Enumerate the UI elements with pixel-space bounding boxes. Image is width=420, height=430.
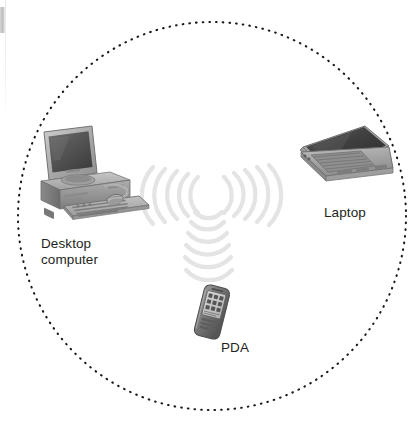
pda-icon (193, 284, 231, 341)
wireless-signal-laptop (224, 165, 281, 225)
node-label-pda: PDA (221, 340, 249, 356)
wireless-signal-desktop (142, 167, 198, 224)
desktop-computer-icon (41, 126, 149, 220)
laptop-icon (300, 126, 393, 181)
node-label-desktop: Desktop computer (41, 236, 98, 267)
diagram-canvas: Desktop computer Laptop PDA (0, 0, 420, 430)
node-label-laptop: Laptop (324, 205, 366, 221)
wireless-signal-pda (185, 212, 232, 280)
